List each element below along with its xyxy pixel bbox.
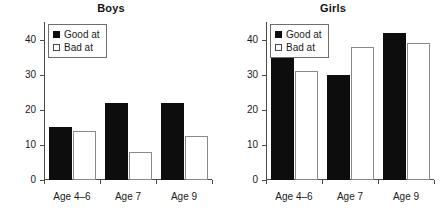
y-axis-tick-label: 30 xyxy=(25,68,36,81)
legend-item-bad-at: Bad at xyxy=(53,41,100,54)
y-axis-tick-label: 0 xyxy=(252,173,258,186)
y-axis-tick-label: 40 xyxy=(25,33,36,46)
x-axis-tick-label: Age 7 xyxy=(115,191,141,202)
bar-good-at xyxy=(161,103,184,180)
x-axis-tick-label: Age 9 xyxy=(393,191,419,202)
bar-good-at xyxy=(327,75,350,180)
bar-good-at xyxy=(383,33,406,180)
x-axis-tick-label: Age 7 xyxy=(337,191,363,202)
x-axis-tick-label: Age 4–6 xyxy=(53,191,90,202)
x-axis-tick xyxy=(156,180,157,184)
y-axis-tick: 20 xyxy=(262,110,266,111)
y-axis-tick-label: 0 xyxy=(30,173,36,186)
y-axis-tick: 10 xyxy=(262,145,266,146)
x-axis-tick xyxy=(322,180,323,184)
legend-swatch-good-at-icon xyxy=(53,31,60,38)
x-axis-tick xyxy=(378,180,379,184)
x-axis-tick xyxy=(100,180,101,184)
legend-swatch-bad-at-icon xyxy=(53,44,60,51)
bar-bad-at xyxy=(185,136,208,180)
chart-panel-boys: Boys 010203040Age 4–6Age 7Age 9 Good at … xyxy=(0,0,222,210)
bar-bad-at xyxy=(73,131,96,180)
y-axis-tick: 20 xyxy=(40,110,44,111)
panel-title-boys: Boys xyxy=(0,2,222,14)
bar-bad-at xyxy=(295,71,318,180)
chart-panel-girls: Girls 010203040Age 4–6Age 7Age 9 Good at… xyxy=(222,0,444,210)
y-axis-tick: 30 xyxy=(262,75,266,76)
bar-good-at xyxy=(271,57,294,180)
legend-girls: Good at Bad at xyxy=(270,24,329,58)
bar-bad-at xyxy=(351,47,374,180)
y-axis-tick: 10 xyxy=(40,145,44,146)
y-axis-tick-label: 10 xyxy=(25,138,36,151)
x-axis-tick-label: Age 4–6 xyxy=(275,191,312,202)
y-axis-tick: 40 xyxy=(40,40,44,41)
y-axis-tick: 30 xyxy=(40,75,44,76)
y-axis-tick-label: 30 xyxy=(247,68,258,81)
x-axis-tick xyxy=(44,180,45,184)
legend-label-good-at: Good at xyxy=(64,28,100,41)
x-axis-tick xyxy=(434,180,435,184)
bar-good-at xyxy=(49,127,72,180)
panel-title-girls: Girls xyxy=(222,2,444,14)
y-axis-tick-label: 20 xyxy=(247,103,258,116)
y-axis-line xyxy=(266,22,267,180)
y-axis-tick: 40 xyxy=(262,40,266,41)
y-axis-line xyxy=(44,22,45,180)
y-axis-tick-label: 40 xyxy=(247,33,258,46)
y-axis-tick-label: 10 xyxy=(247,138,258,151)
legend-swatch-good-at-icon xyxy=(275,31,282,38)
legend-item-good-at: Good at xyxy=(53,28,100,41)
y-axis-tick-label: 20 xyxy=(25,103,36,116)
legend-item-good-at: Good at xyxy=(275,28,322,41)
legend-label-bad-at: Bad at xyxy=(286,41,315,54)
bar-bad-at xyxy=(407,43,430,180)
legend-item-bad-at: Bad at xyxy=(275,41,322,54)
legend-label-bad-at: Bad at xyxy=(64,41,93,54)
x-axis-tick-label: Age 9 xyxy=(171,191,197,202)
bar-good-at xyxy=(105,103,128,180)
bar-bad-at xyxy=(129,152,152,180)
legend-swatch-bad-at-icon xyxy=(275,44,282,51)
legend-boys: Good at Bad at xyxy=(48,24,107,58)
legend-label-good-at: Good at xyxy=(286,28,322,41)
x-axis-tick xyxy=(212,180,213,184)
x-axis-tick xyxy=(266,180,267,184)
chart-figure: Boys 010203040Age 4–6Age 7Age 9 Good at … xyxy=(0,0,444,210)
